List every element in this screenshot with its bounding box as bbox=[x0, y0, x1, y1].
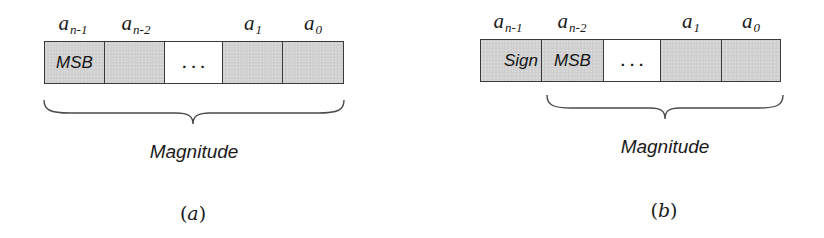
bit-label-subscript: n-2 bbox=[569, 20, 586, 35]
panel-b-sign-magnitude: an-1 an-2 a1 a0 Sign MSB ... Magnitude (… bbox=[0, 0, 824, 238]
bit-label-b-n-1: an-1 bbox=[494, 11, 523, 34]
bit-label-b-0: a0 bbox=[742, 11, 760, 34]
cell-a1 bbox=[661, 40, 722, 81]
caption-paren-close: ) bbox=[670, 199, 677, 221]
bit-label-subscript: n-1 bbox=[505, 20, 522, 35]
bit-label-subscript: 1 bbox=[694, 20, 701, 35]
cell-a0 bbox=[722, 40, 780, 81]
bit-label-base: a bbox=[742, 9, 753, 33]
bit-label-b-n-2: an-2 bbox=[558, 11, 587, 34]
bit-label-subscript: 0 bbox=[754, 20, 761, 35]
magnitude-label: Magnitude bbox=[621, 137, 710, 156]
bit-label-b-1: a1 bbox=[682, 11, 700, 34]
cell-ellipsis: ... bbox=[604, 40, 661, 81]
bit-label-base: a bbox=[682, 9, 693, 33]
bit-label-base: a bbox=[494, 9, 505, 33]
curly-brace-icon bbox=[543, 91, 788, 123]
bit-register-b: Sign MSB ... bbox=[480, 39, 781, 82]
caption-letter: b bbox=[658, 199, 670, 221]
caption-b: (b) bbox=[650, 201, 677, 220]
cell-msb: MSB bbox=[542, 40, 604, 81]
cell-sign: Sign bbox=[481, 40, 542, 81]
bit-label-base: a bbox=[558, 9, 569, 33]
